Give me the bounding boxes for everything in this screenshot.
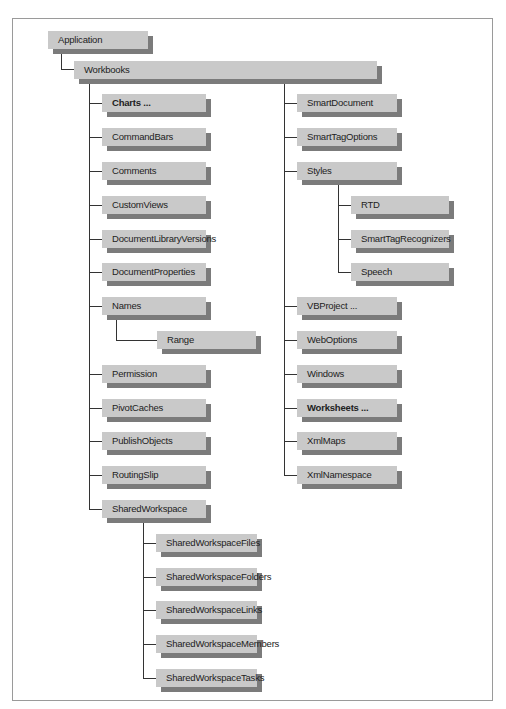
- connector: [143, 610, 156, 611]
- node-speech: Speech: [351, 263, 449, 281]
- connector: [143, 577, 156, 578]
- node-charts: Charts ...: [102, 94, 206, 112]
- node-commandbars: CommandBars: [102, 128, 206, 146]
- connector: [284, 374, 297, 375]
- node-windows: Windows: [297, 365, 397, 383]
- node-styles: Styles: [297, 162, 397, 180]
- connector: [284, 137, 297, 138]
- connector: [143, 678, 156, 679]
- node-xmlmaps: XmlMaps: [297, 432, 397, 450]
- connector: [89, 272, 102, 273]
- connector: [338, 239, 351, 240]
- node-sharedworkspace: SharedWorkspace: [102, 500, 206, 518]
- node-pivotcaches: PivotCaches: [102, 399, 206, 417]
- connector: [89, 171, 102, 172]
- connector: [116, 340, 157, 341]
- node-smarttagoptions: SmartTagOptions: [297, 128, 397, 146]
- connector: [338, 205, 351, 206]
- node-workbooks: Workbooks: [74, 61, 377, 79]
- node-customviews: CustomViews: [102, 196, 206, 214]
- node-smarttagrecognizers: SmartTagRecognizers: [351, 230, 449, 248]
- connector: [89, 83, 90, 509]
- connector: [61, 49, 62, 70]
- connector: [89, 239, 102, 240]
- connector: [143, 543, 156, 544]
- connector: [284, 441, 297, 442]
- connector: [89, 441, 102, 442]
- node-documentproperties: DocumentProperties: [102, 263, 206, 281]
- node-vbproject: VBProject ...: [297, 297, 397, 315]
- connector: [284, 103, 297, 104]
- node-range: Range: [157, 331, 256, 349]
- node-weboptions: WebOptions: [297, 331, 397, 349]
- connector: [338, 272, 351, 273]
- node-sharedworkspacelinks: SharedWorkspaceLinks: [156, 601, 257, 619]
- node-rtd: RTD: [351, 196, 449, 214]
- node-sharedworkspacemembers: SharedWorkspaceMembers: [156, 635, 257, 653]
- connector: [89, 137, 102, 138]
- connector: [284, 83, 285, 476]
- connector: [89, 475, 102, 476]
- node-routingslip: RoutingSlip: [102, 466, 206, 484]
- connector: [143, 644, 156, 645]
- connector: [284, 171, 297, 172]
- node-sharedworkspacetasks: SharedWorkspaceTasks: [156, 669, 257, 687]
- node-xmlnamespace: XmlNamespace: [297, 466, 397, 484]
- node-worksheets: Worksheets ...: [297, 399, 397, 417]
- diagram-frame: [12, 18, 493, 701]
- connector: [89, 205, 102, 206]
- node-sharedworkspacefolders: SharedWorkspaceFolders: [156, 568, 257, 586]
- connector: [116, 315, 117, 341]
- node-smartdocument: SmartDocument: [297, 94, 397, 112]
- connector: [284, 306, 297, 307]
- connector: [284, 340, 297, 341]
- connector: [89, 306, 102, 307]
- node-permission: Permission: [102, 365, 206, 383]
- node-sharedworkspacefiles: SharedWorkspaceFiles: [156, 534, 257, 552]
- connector: [89, 509, 102, 510]
- connector: [89, 408, 102, 409]
- connector: [89, 374, 102, 375]
- node-comments: Comments: [102, 162, 206, 180]
- connector: [61, 69, 74, 70]
- node-names: Names: [102, 297, 206, 315]
- connector: [338, 180, 339, 273]
- connector: [89, 103, 102, 104]
- connector: [284, 408, 297, 409]
- node-publishobjects: PublishObjects: [102, 432, 206, 450]
- node-documentlibraryversions: DocumentLibraryVersions: [102, 230, 206, 248]
- connector: [284, 475, 297, 476]
- node-application: Application: [48, 31, 148, 49]
